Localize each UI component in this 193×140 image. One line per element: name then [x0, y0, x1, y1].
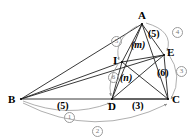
geometry-figure: A B C D E I (5) (m) (n) (6) (5) (3) 1 2 … [0, 0, 193, 140]
vertex-dot-C [167, 98, 169, 100]
vertex-label-C: C [172, 94, 180, 105]
vertex-dot-I [121, 61, 123, 63]
segment-label-AI: (m) [131, 40, 145, 50]
vertex-dots [20, 23, 169, 100]
vertex-dot-E [163, 54, 165, 56]
vertex-label-B: B [8, 94, 15, 105]
vertex-dot-B [20, 98, 22, 100]
construction-step-number-2: 2 [92, 126, 103, 137]
segment-label-ID: (n) [120, 73, 132, 83]
vertex-dot-A [141, 23, 143, 25]
construction-step-number-6: 6 [108, 72, 119, 83]
segment-label-EC: (6) [157, 68, 169, 78]
vertex-label-A: A [138, 10, 146, 21]
vertex-label-D: D [108, 101, 116, 112]
construction-step-number-5: 5 [111, 36, 122, 47]
segment-label-AE: (5) [148, 29, 160, 39]
construction-step-number-3: 3 [176, 66, 187, 77]
vertex-label-I: I [113, 55, 117, 66]
construction-step-number-4: 4 [172, 27, 183, 38]
construction-step-number-1: 1 [64, 112, 75, 123]
vertex-label-E: E [167, 47, 174, 58]
segment-label-DC: (3) [132, 101, 144, 111]
construction-arc-2 [23, 103, 167, 122]
edge-B-E [21, 55, 164, 99]
segment-label-BD: (5) [57, 101, 69, 111]
